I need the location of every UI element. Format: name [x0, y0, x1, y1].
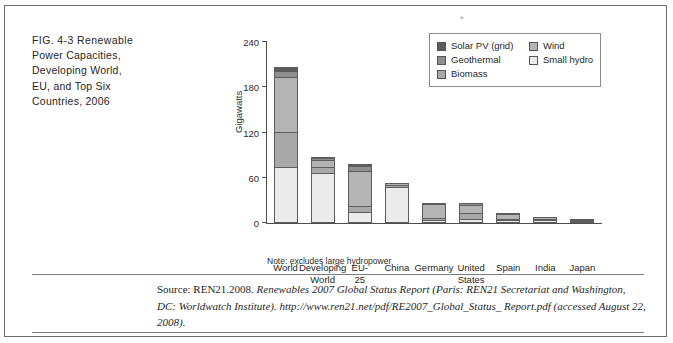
figure-container: FIG. 4-3 Renewable Power Capacities, Dev…	[4, 5, 667, 337]
chart-note: Note: excludes large hydropower	[267, 256, 391, 266]
caption-line: FIG. 4-3 Renewable	[32, 33, 182, 48]
bar-segment-small-hydro	[534, 221, 556, 222]
bar-segment-biomass	[571, 221, 593, 222]
bar-segment-biomass	[275, 133, 297, 167]
x-axis-label: Japan	[554, 262, 610, 274]
divider-rule-bottom	[32, 332, 644, 333]
bar-germany[interactable]	[422, 203, 446, 223]
y-axis-tick-label: 0	[254, 218, 259, 229]
bar-united-states[interactable]	[459, 203, 483, 223]
y-axis-tick-label: 240	[243, 37, 259, 48]
bar-segment-small-hydro	[460, 220, 482, 222]
plot-area: 060120180240WorldDevelopingWorldEU-25Chi…	[267, 42, 601, 223]
bar-world[interactable]	[274, 67, 298, 223]
bar-segment-wind	[423, 205, 445, 219]
caption-line: Power Capacities,	[32, 48, 182, 63]
y-axis-tick	[262, 177, 267, 178]
caption-line: Developing World,	[32, 63, 182, 78]
x-axis-line	[266, 223, 602, 224]
bar-segment-biomass	[312, 168, 334, 175]
bar-segment-small-hydro	[312, 174, 334, 222]
bar-india[interactable]	[533, 217, 557, 223]
y-axis-tick-label: 120	[243, 127, 259, 138]
source-italic-1: Renewables 2007 Global Status Report (Pa…	[257, 283, 569, 295]
y-axis-tick	[262, 41, 267, 42]
bar-china[interactable]	[385, 183, 409, 223]
bar-segment-small-hydro	[275, 168, 297, 222]
caption-line: Countries, 2006	[32, 94, 182, 109]
bar-segment-wind	[275, 78, 297, 133]
y-axis-tick	[262, 222, 267, 223]
bar-segment-wind	[460, 206, 482, 214]
y-axis-tick	[262, 132, 267, 133]
bar-segment-small-hydro	[497, 221, 519, 222]
bar-developing-world[interactable]	[311, 157, 335, 223]
bar-segment-wind	[312, 161, 334, 168]
bar-eu-25[interactable]	[348, 164, 372, 223]
figure-caption: FIG. 4-3 Renewable Power Capacities, Dev…	[32, 33, 182, 109]
caption-line: EU, and Top Six	[32, 79, 182, 94]
bar-spain[interactable]	[496, 213, 520, 223]
source-plain: REN21.2008.	[191, 283, 257, 295]
bar-segment-wind	[349, 172, 371, 208]
source-label: Source:	[157, 283, 191, 295]
x-axis-label-line: Japan	[554, 262, 610, 274]
y-axis-tick-label: 60	[248, 172, 259, 183]
bar-segment-small-hydro	[386, 188, 408, 222]
source-citation: Source: REN21.2008. Renewables 2007 Glob…	[157, 281, 647, 331]
y-axis-tick-label: 180	[243, 82, 259, 93]
bar-japan[interactable]	[570, 219, 594, 223]
y-axis-tick	[262, 86, 267, 87]
divider-rule	[32, 274, 644, 275]
asterisk-mark: *	[460, 14, 464, 24]
bar-segment-small-hydro	[349, 213, 371, 222]
bar-segment-small-hydro	[423, 221, 445, 222]
